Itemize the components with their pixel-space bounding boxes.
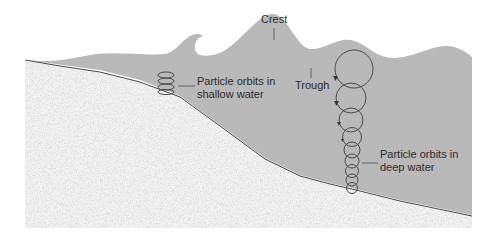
crest-label: Crest: [261, 13, 287, 25]
deep-orbits-label-line2: deep water: [380, 161, 434, 173]
shallow-orbits-label-line2: shallow water: [197, 88, 264, 100]
diagram-canvas: [0, 0, 495, 239]
bottom-margin: [25, 228, 472, 239]
shallow-orbits-label-line1: Particle orbits in: [197, 75, 275, 87]
wave-diagram: Crest Trough Particle orbits in shallow …: [0, 0, 495, 239]
trough-label: Trough: [295, 79, 329, 91]
deep-orbits-label-line1: Particle orbits in: [380, 148, 458, 160]
